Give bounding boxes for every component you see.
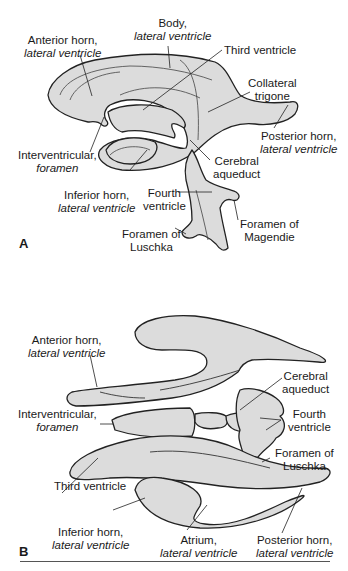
label-inferior-horn-b: Inferior horn, lateral ventricle: [52, 526, 129, 552]
label-collateral-trigone-a: Collateral trigone: [248, 77, 297, 103]
label-posterior-horn-a: Posterior horn, lateral ventricle: [260, 130, 337, 156]
panel-letter-b: B: [19, 544, 28, 559]
panel-b-superior-view: Anterior horn, lateral ventricle Cerebra…: [0, 290, 348, 571]
label-cerebral-aqueduct-a: Cerebral aqueduct: [213, 155, 260, 181]
label-interventricular-foramen-b: Interventricular, foramen: [18, 408, 97, 434]
label-foramen-luschka-a: Foramen of Luschka: [122, 228, 181, 254]
label-fourth-ventricle-b: Fourth ventricle: [288, 408, 331, 434]
panel-a-lateral-view: Anterior horn, lateral ventricle Body, l…: [0, 0, 348, 290]
label-cerebral-aqueduct-b: Cerebral aqueduct: [282, 370, 329, 396]
label-fourth-ventricle-a: Fourth ventricle: [143, 187, 186, 213]
label-third-ventricle-a: Third ventricle: [224, 44, 296, 57]
label-third-ventricle-b: Third ventricle: [54, 480, 126, 493]
bottom-divider: [20, 561, 330, 562]
label-anterior-horn-a: Anterior horn, lateral ventricle: [24, 34, 101, 60]
label-posterior-horn-b: Posterior horn, lateral ventricle: [256, 534, 333, 560]
label-atrium-b: Atrium, lateral ventricle: [160, 534, 237, 560]
label-anterior-horn-b: Anterior horn, lateral ventricle: [28, 334, 105, 360]
label-interventricular-foramen-a: Interventricular, foramen: [18, 149, 97, 175]
label-foramen-luschka-b: Foramen of Luschka: [275, 447, 334, 473]
label-body-a: Body, lateral ventricle: [134, 17, 211, 43]
panel-letter-a: A: [19, 236, 28, 251]
label-foramen-magendie-a: Foramen of Magendie: [240, 218, 299, 244]
label-inferior-horn-a: Inferior horn, lateral ventricle: [58, 189, 135, 215]
